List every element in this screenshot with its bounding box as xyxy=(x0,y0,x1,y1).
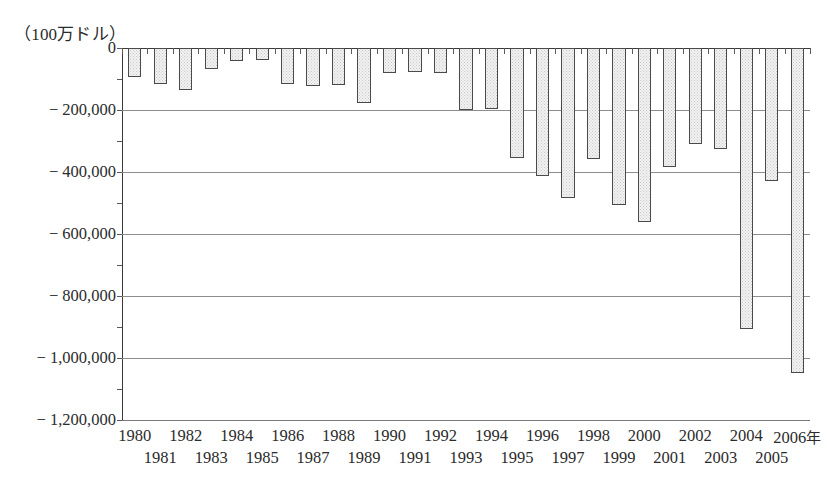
bar xyxy=(205,48,218,69)
bar xyxy=(663,48,676,167)
x-tick-label: 1980 xyxy=(118,426,151,446)
x-tick-label: 1995 xyxy=(500,448,533,468)
y-tick-label: − 400,000 xyxy=(49,162,116,182)
x-tick-label: 2001 xyxy=(653,448,686,468)
gridline--200000 xyxy=(122,110,810,111)
x-tick-label: 2004 xyxy=(730,426,763,446)
bar xyxy=(281,48,294,84)
x-tick-label: 1991 xyxy=(399,448,432,468)
x-tick-mark xyxy=(147,48,148,54)
x-tick-label: 1987 xyxy=(297,448,330,468)
y-tick-mark xyxy=(117,265,122,266)
y-tick-label: − 800,000 xyxy=(49,286,116,306)
x-tick-label: 1999 xyxy=(602,448,635,468)
bar xyxy=(791,48,804,373)
bar xyxy=(587,48,600,159)
y-tick-mark xyxy=(117,327,122,328)
x-axis-suffix: 年 xyxy=(806,430,821,446)
x-tick-mark xyxy=(377,48,378,54)
x-tick-mark xyxy=(683,48,684,54)
y-tick-mark xyxy=(117,234,122,235)
x-tick-mark xyxy=(275,48,276,54)
x-tick-mark xyxy=(428,48,429,54)
bar-chart: （100万ドル） 0− 200,000− 400,000− 600,000− 8… xyxy=(0,0,827,485)
x-tick-label: 1982 xyxy=(169,426,202,446)
x-tick-label: 1998 xyxy=(577,426,610,446)
x-tick-label: 2000 xyxy=(628,426,661,446)
x-tick-mark xyxy=(198,48,199,54)
bar xyxy=(612,48,625,205)
x-tick-mark xyxy=(734,48,735,54)
bar xyxy=(383,48,396,73)
bar xyxy=(256,48,269,60)
gridline--800000 xyxy=(122,296,810,297)
bar xyxy=(434,48,447,73)
gridline--600000 xyxy=(122,234,810,235)
x-tick-mark xyxy=(122,48,123,54)
x-tick-label: 1986 xyxy=(271,426,304,446)
x-tick-mark xyxy=(504,48,505,54)
y-tick-mark xyxy=(117,296,122,297)
x-tick-mark xyxy=(530,48,531,54)
x-tick-mark xyxy=(581,48,582,54)
x-tick-label: 1983 xyxy=(195,448,228,468)
x-tick-label: 2002 xyxy=(679,426,712,446)
x-tick-mark xyxy=(785,48,786,54)
x-tick-label: 1981 xyxy=(144,448,177,468)
y-tick-label: − 1,200,000 xyxy=(37,410,116,430)
x-tick-label: 1993 xyxy=(450,448,483,468)
y-tick-mark xyxy=(117,79,122,80)
x-tick-mark xyxy=(708,48,709,54)
x-tick-label: 2006年 xyxy=(773,426,821,448)
bar xyxy=(510,48,523,158)
x-tick-mark xyxy=(810,48,811,54)
gridline--1000000 xyxy=(122,358,810,359)
x-tick-label: 1996 xyxy=(526,426,559,446)
x-tick-mark xyxy=(632,48,633,54)
gridline--400000 xyxy=(122,172,810,173)
bar xyxy=(408,48,421,72)
x-tick-mark xyxy=(657,48,658,54)
y-tick-mark xyxy=(117,389,122,390)
y-tick-mark xyxy=(117,172,122,173)
x-tick-mark xyxy=(453,48,454,54)
bar xyxy=(230,48,243,61)
bar xyxy=(689,48,702,144)
x-tick-mark xyxy=(173,48,174,54)
x-tick-label: 1990 xyxy=(373,426,406,446)
x-tick-label: 2005 xyxy=(755,448,788,468)
x-tick-mark xyxy=(479,48,480,54)
x-tick-mark xyxy=(300,48,301,54)
x-tick-label: 1997 xyxy=(551,448,584,468)
y-tick-label: − 1,000,000 xyxy=(37,348,116,368)
y-tick-mark xyxy=(117,110,122,111)
y-tick-label: 0 xyxy=(108,38,116,58)
x-tick-mark xyxy=(759,48,760,54)
y-tick-mark xyxy=(117,203,122,204)
x-tick-mark xyxy=(249,48,250,54)
x-tick-label: 1988 xyxy=(322,426,355,446)
x-tick-label: 2003 xyxy=(704,448,737,468)
plot-area xyxy=(122,48,810,420)
x-axis-tick-labels: 1980198119821983198419851986198719881989… xyxy=(122,420,810,480)
bar xyxy=(179,48,192,90)
bar xyxy=(485,48,498,109)
x-tick-mark xyxy=(402,48,403,54)
bar xyxy=(306,48,319,86)
bar xyxy=(740,48,753,329)
x-tick-label: 1984 xyxy=(220,426,253,446)
y-tick-label: − 200,000 xyxy=(49,100,116,120)
x-tick-label: 1994 xyxy=(475,426,508,446)
x-tick-mark xyxy=(606,48,607,54)
x-tick-mark xyxy=(555,48,556,54)
bar xyxy=(638,48,651,222)
x-tick-mark xyxy=(351,48,352,54)
y-axis-tick-labels: 0− 200,000− 400,000− 600,000− 800,000− 1… xyxy=(0,48,116,420)
x-tick-label: 1985 xyxy=(246,448,279,468)
x-tick-label: 1992 xyxy=(424,426,457,446)
x-tick-mark xyxy=(326,48,327,54)
y-tick-label: − 600,000 xyxy=(49,224,116,244)
bar xyxy=(561,48,574,198)
bar xyxy=(536,48,549,176)
bar xyxy=(765,48,778,181)
